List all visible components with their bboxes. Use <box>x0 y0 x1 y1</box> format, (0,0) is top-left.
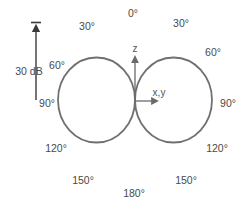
angle-label-right-90: 90° <box>220 98 236 109</box>
xy-axis-label: x,y <box>153 88 166 98</box>
angle-label-right-120: 120° <box>206 143 228 154</box>
angle-label-180: 180° <box>123 188 145 199</box>
z-axis-label: z <box>133 44 138 54</box>
angle-label-left-150: 150° <box>72 175 94 186</box>
angle-label-left-30: 30° <box>79 21 95 32</box>
scale-label: 30 dB <box>15 66 42 77</box>
radiation-pattern-diagram <box>0 0 242 205</box>
angle-label-left-120: 120° <box>45 143 67 154</box>
left-lobe <box>58 58 135 143</box>
angle-label-right-30: 30° <box>173 18 189 29</box>
angle-label-left-60: 60° <box>49 60 65 71</box>
angle-label-right-150: 150° <box>175 175 197 186</box>
angle-label-0: 0° <box>128 8 138 19</box>
angle-label-left-90: 90° <box>39 98 55 109</box>
scale-bar <box>31 23 41 101</box>
angle-label-right-60: 60° <box>205 47 221 58</box>
right-lobe <box>135 58 212 143</box>
